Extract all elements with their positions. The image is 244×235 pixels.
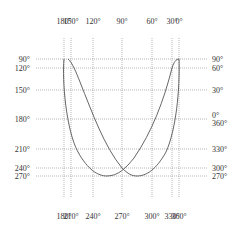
left-axis-label: 270° [15, 172, 30, 181]
right-axis-label: 330° [212, 145, 227, 154]
left-axis-label: 210° [15, 145, 30, 154]
top-axis-label: 0° [175, 17, 182, 26]
left-axis-label: 180° [15, 115, 30, 124]
right-axis-label: 90° [212, 55, 223, 64]
left-axis-label: 90° [19, 55, 30, 64]
bottom-axis-label: 360° [171, 212, 186, 221]
top-axis-label: 120° [85, 17, 100, 26]
right-axis-label: 60° [212, 64, 223, 73]
curves [64, 59, 180, 176]
bottom-axis-label: 300° [144, 212, 159, 221]
bottom-axis-label: 210° [63, 212, 78, 221]
top-axis-label: 90° [116, 17, 127, 26]
left-axis-label: 150° [15, 86, 30, 95]
bottom-axis-label: 270° [114, 212, 129, 221]
left-axis-label: 120° [15, 64, 30, 73]
left-axis-labels: 90°120°150°180°210°240°270° [15, 55, 30, 181]
angle-diagram: 180°150°120°90°60°30°0° 180°210°240°270°… [0, 0, 244, 235]
right-axis-labels: 90°60°30°0°360°330°300°270° [212, 55, 227, 181]
top-axis-label: 150° [63, 17, 78, 26]
right-axis-label: 30° [212, 86, 223, 95]
bottom-axis-labels: 180°210°240°270°300°330°360° [56, 212, 186, 221]
right-axis-label: 270° [212, 172, 227, 181]
vertical-gridlines [64, 38, 179, 198]
right-axis-label: 360° [212, 119, 227, 128]
top-axis-label: 60° [146, 17, 157, 26]
left-peak-inner-strand [68, 59, 179, 176]
top-axis-labels: 180°150°120°90°60°30°0° [56, 17, 182, 26]
bottom-axis-label: 240° [85, 212, 100, 221]
